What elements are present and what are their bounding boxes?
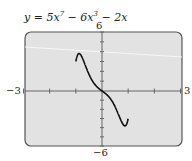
- y-max-label: 6: [96, 20, 102, 31]
- y-min-label: −6: [93, 147, 108, 158]
- x-max-label: 3: [184, 85, 190, 96]
- x-min-label: −3: [6, 85, 21, 96]
- plot-frame: [25, 32, 182, 146]
